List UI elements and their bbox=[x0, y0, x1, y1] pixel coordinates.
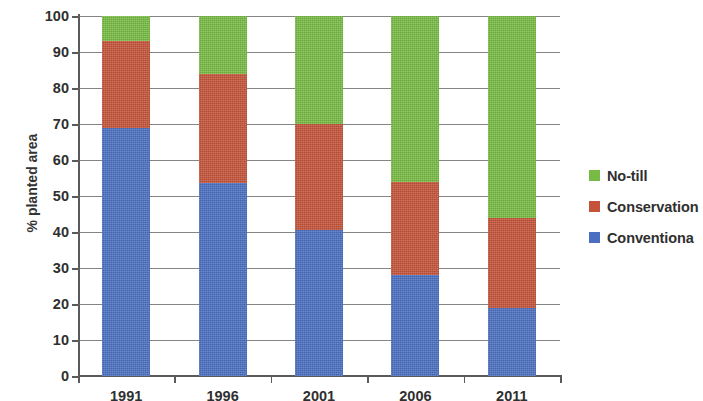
bar-stack[interactable] bbox=[295, 16, 343, 376]
x-tick-label: 1996 bbox=[206, 388, 238, 401]
y-tick-label: 20 bbox=[53, 296, 69, 312]
y-tick-label: 0 bbox=[61, 368, 69, 384]
y-tick-label: 10 bbox=[53, 332, 69, 348]
legend-item[interactable]: Conventiona bbox=[589, 222, 703, 253]
legend-label: Conservation bbox=[607, 199, 698, 215]
x-tick-mark bbox=[78, 376, 80, 383]
y-tick-label: 40 bbox=[53, 224, 69, 240]
y-tick-mark bbox=[72, 88, 79, 90]
y-tick-label: 80 bbox=[53, 80, 69, 96]
legend-label: Conventiona bbox=[607, 230, 694, 246]
x-tick-mark bbox=[560, 376, 562, 383]
bar-segment-conventional[interactable] bbox=[391, 275, 439, 376]
legend-swatch-icon bbox=[589, 232, 600, 243]
y-tick-label: 60 bbox=[53, 152, 69, 168]
y-tick-mark bbox=[72, 340, 79, 342]
bar-segment-conventional[interactable] bbox=[488, 308, 536, 376]
y-axis-title: % planted area bbox=[24, 73, 40, 293]
bar-segment-conservation[interactable] bbox=[199, 74, 247, 184]
x-tick-label: 2001 bbox=[303, 388, 335, 401]
legend-swatch-icon bbox=[589, 201, 600, 212]
bar-segment-conventional[interactable] bbox=[102, 128, 150, 376]
bar-segment-no-till[interactable] bbox=[199, 16, 247, 74]
plot-area: 0102030405060708090100199119962001200620… bbox=[78, 16, 560, 376]
y-tick-mark bbox=[72, 160, 79, 162]
bar-segment-conservation[interactable] bbox=[102, 41, 150, 127]
bar-stack[interactable] bbox=[488, 16, 536, 376]
y-tick-mark bbox=[72, 52, 79, 54]
bar-stack[interactable] bbox=[391, 16, 439, 376]
bar-segment-no-till[interactable] bbox=[391, 16, 439, 182]
bar-segment-conservation[interactable] bbox=[488, 218, 536, 308]
bar-stack[interactable] bbox=[199, 16, 247, 376]
legend-item[interactable]: No-till bbox=[589, 160, 703, 191]
x-tick-label: 2006 bbox=[399, 388, 431, 401]
bar-segment-conservation[interactable] bbox=[391, 182, 439, 276]
x-tick-mark bbox=[464, 376, 466, 383]
y-tick-label: 30 bbox=[53, 260, 69, 276]
legend-item[interactable]: Conservation bbox=[589, 191, 703, 222]
y-tick-mark bbox=[72, 304, 79, 306]
legend-swatch-icon bbox=[589, 170, 600, 181]
x-tick-mark bbox=[174, 376, 176, 383]
x-tick-mark bbox=[367, 376, 369, 383]
y-tick-mark bbox=[72, 16, 79, 18]
y-tick-mark bbox=[72, 196, 79, 198]
bar-segment-no-till[interactable] bbox=[102, 16, 150, 41]
y-tick-label: 100 bbox=[45, 8, 69, 24]
y-tick-mark bbox=[72, 268, 79, 270]
y-tick-label: 90 bbox=[53, 44, 69, 60]
y-tick-label: 50 bbox=[53, 188, 69, 204]
y-tick-label: 70 bbox=[53, 116, 69, 132]
bar-segment-no-till[interactable] bbox=[488, 16, 536, 218]
x-tick-mark bbox=[271, 376, 273, 383]
bar-segment-conventional[interactable] bbox=[295, 230, 343, 376]
bar-segment-conventional[interactable] bbox=[199, 183, 247, 376]
x-tick-label: 1991 bbox=[110, 388, 142, 401]
bar-segment-no-till[interactable] bbox=[295, 16, 343, 124]
legend-label: No-till bbox=[607, 168, 647, 184]
x-tick-label: 2011 bbox=[496, 388, 527, 401]
bar-stack[interactable] bbox=[102, 16, 150, 376]
chart-legend: No-tillConservationConventiona bbox=[589, 160, 703, 253]
y-tick-mark bbox=[72, 232, 79, 234]
y-tick-mark bbox=[72, 124, 79, 126]
bar-segment-conservation[interactable] bbox=[295, 124, 343, 230]
